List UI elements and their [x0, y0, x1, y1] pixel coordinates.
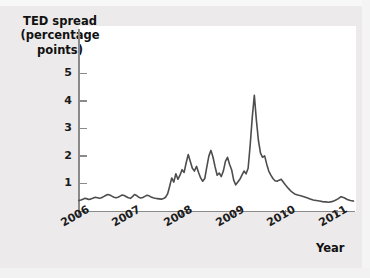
x-axis-title: Year	[316, 243, 345, 255]
ted-spread-line	[79, 95, 354, 202]
series-layer	[0, 0, 370, 278]
ted-spread-chart-figure: TED spread (percentage points) 12345 200…	[0, 0, 370, 278]
